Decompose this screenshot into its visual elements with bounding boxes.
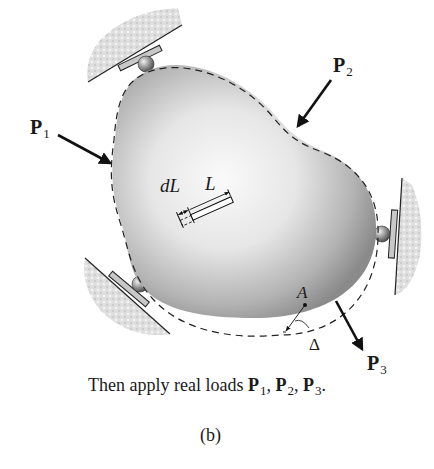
load-arrow-p2 <box>298 80 331 126</box>
caption-sep-2: , <box>294 375 303 395</box>
virtual-work-figure: P1 P2 P3 dL L A Δ Then apply real loads … <box>0 0 434 469</box>
label-p1: P1 <box>30 116 50 142</box>
load-arrow-p1 <box>58 135 110 163</box>
label-dl: dL <box>160 175 180 197</box>
caption-prefix: Then apply real loads <box>88 375 248 395</box>
label-point-a: A <box>297 283 307 303</box>
label-delta: Δ <box>309 335 320 355</box>
caption-p3: P <box>303 375 314 395</box>
caption-p1: P <box>248 375 259 395</box>
load-arrow-p3 <box>336 301 362 349</box>
deformable-body <box>112 65 376 318</box>
caption: Then apply real loads P1, P2, P3. <box>88 375 326 399</box>
label-p3: P3 <box>367 352 387 378</box>
caption-p2: P <box>275 375 286 395</box>
caption-sep-3: . <box>321 375 326 395</box>
displacement-angle-arc <box>295 320 309 328</box>
panel-label: (b) <box>200 425 221 446</box>
support-right <box>374 178 421 295</box>
label-p2: P2 <box>333 54 353 80</box>
label-l: L <box>205 173 216 195</box>
roller-right <box>374 226 390 242</box>
